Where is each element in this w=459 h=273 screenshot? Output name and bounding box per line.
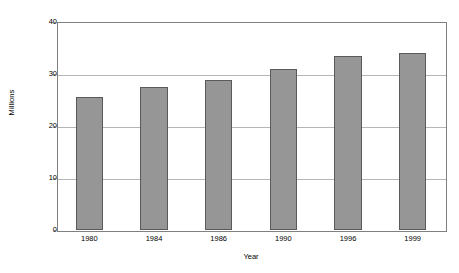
plot-area <box>57 22 447 232</box>
x-axis-title: Year <box>57 252 445 261</box>
y-tick-label: 10 <box>11 174 57 182</box>
x-tick-label: 1980 <box>57 234 122 244</box>
gridline <box>58 127 446 128</box>
y-tick-label: 0 <box>11 226 57 234</box>
x-tick-label: 1996 <box>316 234 381 244</box>
bar-chart: Millions 010203040 198019841986199019961… <box>0 0 459 273</box>
y-tick-label: 20 <box>11 122 57 130</box>
y-tick-label: 40 <box>11 18 57 26</box>
y-tick-label: 30 <box>11 70 57 78</box>
x-tick-label: 1999 <box>380 234 445 244</box>
x-axis-ticks: 198019841986199019961999 <box>57 234 445 248</box>
x-tick-label: 1986 <box>186 234 251 244</box>
x-tick-label: 1984 <box>122 234 187 244</box>
gridline <box>58 179 446 180</box>
x-tick-label: 1990 <box>251 234 316 244</box>
gridline <box>58 75 446 76</box>
y-axis-ticks: 010203040 <box>0 22 57 230</box>
